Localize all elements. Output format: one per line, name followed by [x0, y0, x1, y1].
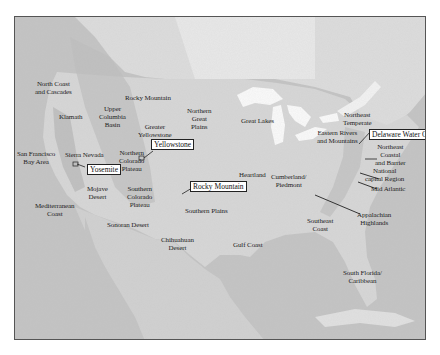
- region-national-capital-region: National capital Region: [365, 167, 404, 183]
- callout-yosemite: Yosemite: [87, 164, 121, 175]
- region-upper-columbia-basin: Upper Columbia Basin: [99, 105, 126, 129]
- region-heartland: Heartland: [239, 171, 266, 179]
- callout-delaware-water-gap: Delaware Water Gap: [369, 129, 426, 140]
- region-gulf-coast: Gulf Coast: [233, 241, 263, 249]
- region-northern-colorado-plateau: Northern Colorado Plateau: [119, 149, 144, 173]
- region-chihuahuan-desert: Chihuahuan Desert: [161, 236, 194, 252]
- region-sierra-nevada: Sierra Nevada: [65, 151, 104, 159]
- callout-rocky-mountain: Rocky Mountain: [190, 181, 247, 192]
- region-rocky-mountain: Rocky Mountain: [125, 94, 171, 102]
- region-northern-great-plains: Northern Great Plains: [187, 107, 211, 131]
- map-frame: North Coast and Cascades Klamath Upper C…: [14, 16, 426, 340]
- region-mid-atlantic: Mid Atlantic: [371, 185, 405, 193]
- region-appalachian-highlands: Appalachian Highlands: [357, 211, 391, 227]
- region-klamath: Klamath: [59, 113, 82, 121]
- region-mojave-desert: Mojave Desert: [87, 185, 108, 201]
- region-southeast-coast: Southeast Coast: [307, 217, 333, 233]
- region-northeast-temperate: Northeast Temperate: [343, 111, 372, 127]
- region-south-florida-caribbean: South Florida/ Caribbean: [343, 269, 382, 285]
- region-greater-yellowstone: Greater Yellowstone: [138, 123, 172, 139]
- region-southern-plains: Southern Plains: [185, 207, 228, 215]
- region-great-lakes: Great Lakes: [241, 117, 274, 125]
- region-san-francisco-bay-area: San Francisco Bay Area: [17, 150, 55, 166]
- region-eastern-rivers-mountains: Eastern Rivers and Mountains: [317, 129, 358, 145]
- region-north-coast-cascades: North Coast and Cascades: [35, 80, 72, 96]
- region-cumberland-piedmont: Cumberland/ Piedmont: [271, 173, 306, 189]
- region-northeast-coastal-barrier: Northeast Coastal and Barrier: [375, 143, 406, 167]
- region-sonoran-desert: Sonoran Desert: [107, 221, 149, 229]
- callout-yellowstone: Yellowstone: [151, 139, 194, 150]
- region-mediterranean-coast: Mediterranean Coast: [35, 202, 75, 218]
- region-southern-colorado-plateau: Southern Colorado Plateau: [127, 185, 152, 209]
